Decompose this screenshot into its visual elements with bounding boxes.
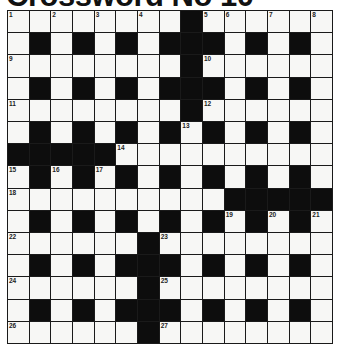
grid-cell[interactable]: 18: [8, 189, 29, 210]
grid-cell[interactable]: [181, 211, 202, 232]
grid-cell[interactable]: [225, 144, 246, 165]
grid-cell[interactable]: [160, 144, 181, 165]
grid-cell[interactable]: 22: [8, 233, 29, 254]
grid-cell[interactable]: 12: [203, 100, 224, 121]
grid-cell[interactable]: [181, 233, 202, 254]
grid-cell[interactable]: [51, 255, 72, 276]
grid-cell[interactable]: [8, 300, 29, 321]
grid-cell[interactable]: [311, 277, 332, 298]
grid-cell[interactable]: [225, 122, 246, 143]
grid-cell[interactable]: 8: [311, 11, 332, 32]
grid-cell[interactable]: [138, 33, 159, 54]
grid-cell[interactable]: [51, 100, 72, 121]
grid-cell[interactable]: [138, 100, 159, 121]
grid-cell[interactable]: [290, 233, 311, 254]
grid-cell[interactable]: [181, 322, 202, 343]
grid-cell[interactable]: [30, 55, 51, 76]
grid-cell[interactable]: [51, 211, 72, 232]
grid-cell[interactable]: 9: [8, 55, 29, 76]
grid-cell[interactable]: [311, 322, 332, 343]
grid-cell[interactable]: [225, 233, 246, 254]
grid-cell[interactable]: 3: [95, 11, 116, 32]
grid-cell[interactable]: [311, 300, 332, 321]
grid-cell[interactable]: 24: [8, 277, 29, 298]
grid-cell[interactable]: [95, 233, 116, 254]
grid-cell[interactable]: [290, 322, 311, 343]
grid-cell[interactable]: [73, 55, 94, 76]
grid-cell[interactable]: [95, 189, 116, 210]
grid-cell[interactable]: [73, 189, 94, 210]
grid-cell[interactable]: 13: [181, 122, 202, 143]
grid-cell[interactable]: [73, 233, 94, 254]
grid-cell[interactable]: [246, 144, 267, 165]
grid-cell[interactable]: 7: [268, 11, 289, 32]
grid-cell[interactable]: [138, 144, 159, 165]
grid-cell[interactable]: [30, 277, 51, 298]
grid-cell[interactable]: [311, 255, 332, 276]
grid-cell[interactable]: [246, 233, 267, 254]
grid-cell[interactable]: [95, 55, 116, 76]
grid-cell[interactable]: 23: [160, 233, 181, 254]
grid-cell[interactable]: [116, 11, 137, 32]
grid-cell[interactable]: [95, 255, 116, 276]
grid-cell[interactable]: 6: [225, 11, 246, 32]
grid-cell[interactable]: 2: [51, 11, 72, 32]
grid-cell[interactable]: [73, 322, 94, 343]
grid-cell[interactable]: [203, 277, 224, 298]
grid-cell[interactable]: 20: [268, 211, 289, 232]
grid-cell[interactable]: 4: [138, 11, 159, 32]
grid-cell[interactable]: [225, 300, 246, 321]
grid-cell[interactable]: [160, 189, 181, 210]
grid-cell[interactable]: [268, 255, 289, 276]
grid-cell[interactable]: [30, 322, 51, 343]
grid-cell[interactable]: [246, 100, 267, 121]
grid-cell[interactable]: [203, 233, 224, 254]
grid-cell[interactable]: [290, 144, 311, 165]
grid-cell[interactable]: [51, 189, 72, 210]
grid-cell[interactable]: [225, 78, 246, 99]
grid-cell[interactable]: [290, 11, 311, 32]
grid-cell[interactable]: [51, 300, 72, 321]
grid-cell[interactable]: [246, 55, 267, 76]
grid-cell[interactable]: [8, 78, 29, 99]
grid-cell[interactable]: [160, 55, 181, 76]
grid-cell[interactable]: [225, 100, 246, 121]
grid-cell[interactable]: [8, 211, 29, 232]
grid-cell[interactable]: [116, 189, 137, 210]
grid-cell[interactable]: [268, 166, 289, 187]
grid-cell[interactable]: [51, 55, 72, 76]
grid-cell[interactable]: [290, 277, 311, 298]
grid-cell[interactable]: [138, 211, 159, 232]
grid-cell[interactable]: [138, 55, 159, 76]
grid-cell[interactable]: [246, 322, 267, 343]
grid-cell[interactable]: [95, 211, 116, 232]
grid-cell[interactable]: [138, 122, 159, 143]
grid-cell[interactable]: [73, 100, 94, 121]
grid-cell[interactable]: [225, 33, 246, 54]
grid-cell[interactable]: [160, 11, 181, 32]
grid-cell[interactable]: [290, 55, 311, 76]
grid-cell[interactable]: 5: [203, 11, 224, 32]
grid-cell[interactable]: [246, 11, 267, 32]
grid-cell[interactable]: [268, 322, 289, 343]
grid-cell[interactable]: 10: [203, 55, 224, 76]
grid-cell[interactable]: 16: [51, 166, 72, 187]
grid-cell[interactable]: [311, 122, 332, 143]
grid-cell[interactable]: [311, 78, 332, 99]
grid-cell[interactable]: [268, 233, 289, 254]
grid-cell[interactable]: [203, 189, 224, 210]
grid-cell[interactable]: 25: [160, 277, 181, 298]
grid-cell[interactable]: [311, 33, 332, 54]
grid-cell[interactable]: [116, 100, 137, 121]
grid-cell[interactable]: [51, 78, 72, 99]
grid-cell[interactable]: [116, 55, 137, 76]
grid-cell[interactable]: [225, 55, 246, 76]
grid-cell[interactable]: [311, 166, 332, 187]
grid-cell[interactable]: [311, 100, 332, 121]
grid-cell[interactable]: [181, 166, 202, 187]
grid-cell[interactable]: [311, 55, 332, 76]
grid-cell[interactable]: [95, 78, 116, 99]
grid-cell[interactable]: [51, 277, 72, 298]
grid-cell[interactable]: [95, 300, 116, 321]
grid-cell[interactable]: [51, 33, 72, 54]
